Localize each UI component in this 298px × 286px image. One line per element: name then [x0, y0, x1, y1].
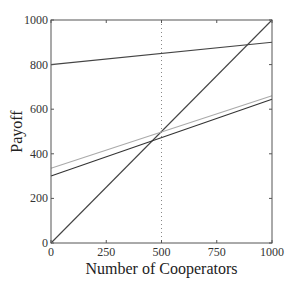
x-tick-label: 0	[48, 245, 54, 259]
y-tick-label: 800	[30, 58, 48, 72]
plot-lines	[51, 20, 272, 243]
x-tick-label: 1000	[260, 245, 284, 259]
y-axis-label: Payoff	[8, 110, 26, 153]
y-tick-label: 0	[42, 236, 48, 250]
y-tick-label: 600	[30, 102, 48, 116]
payoff-chart: 02505007501000 02004006008001000 Number …	[0, 0, 298, 286]
x-tick-label: 750	[208, 245, 226, 259]
y-tick-label: 400	[30, 147, 48, 161]
y-tick-label: 1000	[24, 13, 48, 27]
x-tick-label: 500	[153, 245, 171, 259]
x-axis-ticks: 02505007501000	[48, 20, 284, 259]
x-axis-label: Number of Cooperators	[86, 260, 238, 278]
x-tick-label: 250	[97, 245, 115, 259]
y-axis-ticks: 02004006008001000	[24, 13, 272, 250]
y-tick-label: 200	[30, 191, 48, 205]
